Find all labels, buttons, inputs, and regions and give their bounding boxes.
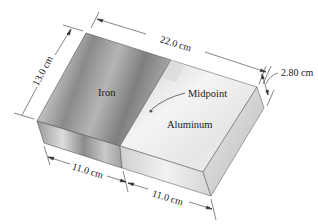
label-iron-length: 11.0 cm <box>71 161 105 181</box>
midpoint-marker <box>149 109 152 112</box>
label-midpoint: Midpoint <box>188 88 227 99</box>
label-thickness: 2.80 cm <box>281 67 313 78</box>
label-aluminum-length: 11.0 cm <box>151 188 185 208</box>
label-width: 13.0 cm <box>30 54 55 88</box>
composite-bar-diagram: 22.0 cm 13.0 cm 2.80 cm 11.0 cm 11.0 cm <box>0 0 318 224</box>
label-total-length: 22.0 cm <box>159 34 193 54</box>
label-iron: Iron <box>98 87 116 98</box>
label-aluminum: Aluminum <box>167 119 213 130</box>
